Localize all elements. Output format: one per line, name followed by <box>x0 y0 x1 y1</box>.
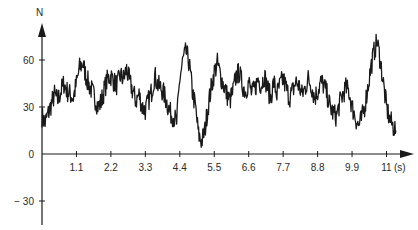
x-tick-label: 6.6 <box>242 162 256 173</box>
y-ticks: 60300− 30 <box>14 55 45 207</box>
y-axis-label: N <box>36 7 43 18</box>
y-tick-label: 60 <box>23 55 35 66</box>
x-axis-label: (s) <box>394 162 406 173</box>
data-series-line <box>42 34 396 147</box>
x-tick-label: 3.3 <box>138 162 152 173</box>
x-tick-label: 5.5 <box>207 162 221 173</box>
x-tick-label: 7.7 <box>276 162 290 173</box>
x-tick-label: 1.1 <box>69 162 83 173</box>
x-axis-arrow-icon <box>400 150 414 158</box>
line-chart: N (s) 60300− 30 1.12.23.34.45.56.67.78.8… <box>0 0 418 230</box>
y-tick-label: 0 <box>28 149 34 160</box>
y-tick-label: − 30 <box>14 196 34 207</box>
x-tick-label: 11 <box>381 162 392 173</box>
y-axis-arrow-icon <box>38 23 46 37</box>
x-tick-label: 8.8 <box>311 162 325 173</box>
x-tick-label: 9.9 <box>345 162 359 173</box>
x-tick-label: 2.2 <box>104 162 118 173</box>
y-tick-label: 30 <box>23 102 35 113</box>
x-tick-label: 4.4 <box>173 162 187 173</box>
